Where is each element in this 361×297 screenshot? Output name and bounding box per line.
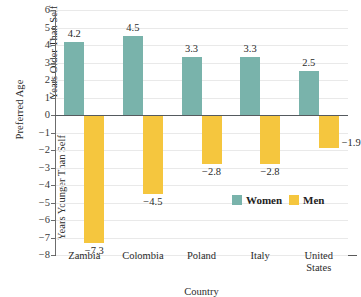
bar-women xyxy=(123,36,143,115)
legend-item: Men xyxy=(289,194,324,206)
y-tick-label: 3 xyxy=(45,57,50,68)
bar-men xyxy=(319,115,339,148)
y-tick-label: −7 xyxy=(39,232,50,243)
y-tick-label: 0 xyxy=(45,110,50,121)
bar-value-label-women: 3.3 xyxy=(240,44,260,55)
x-tick-label: Poland xyxy=(172,250,231,262)
x-axis-title: Country xyxy=(55,286,348,297)
legend-swatch xyxy=(289,195,299,205)
bar-value-label-men: −2.8 xyxy=(260,167,280,178)
bar-value-label-women: 4.5 xyxy=(123,23,143,34)
bar-men xyxy=(84,115,104,243)
y-tick-label: −2 xyxy=(39,145,50,156)
bar-value-label-men: −2.8 xyxy=(202,167,222,178)
y-tick-label: 6 xyxy=(45,5,50,16)
bar-value-label-men: −4.5 xyxy=(143,197,163,208)
bar-women xyxy=(299,71,319,115)
y-tick-label: −4 xyxy=(39,180,50,191)
x-tick-label: Colombia xyxy=(114,250,173,262)
chart-legend: WomenMen xyxy=(232,194,324,206)
y-tick-label: 5 xyxy=(45,22,50,33)
x-tick-label: United States xyxy=(289,250,348,273)
bar-value-label-men: −1.9 xyxy=(342,138,361,149)
bar-women xyxy=(240,57,260,115)
x-tick-label: Italy xyxy=(231,250,290,262)
legend-label: Men xyxy=(303,194,324,206)
legend-item: Women xyxy=(232,194,282,206)
y-tick-label: −6 xyxy=(39,215,50,226)
y-tick-label: −1 xyxy=(39,127,50,138)
bar-men xyxy=(202,115,222,164)
bar-value-label-women: 4.2 xyxy=(64,29,84,40)
bar-value-label-women: 3.3 xyxy=(182,44,202,55)
y-tick-label: −5 xyxy=(39,197,50,208)
bar-value-label-women: 2.5 xyxy=(299,58,319,69)
y-tick-label: 2 xyxy=(45,75,50,86)
legend-label: Women xyxy=(246,194,282,206)
plot-area: 6543210−1−2−3−4−5−6−7−8 4.2−7.34.5−4.53.… xyxy=(55,10,348,255)
y-tick-label: 1 xyxy=(45,92,50,103)
bar-value-label-men: −7.3 xyxy=(84,246,104,257)
bar-men xyxy=(143,115,163,194)
bars-layer: 4.2−7.34.5−4.53.3−2.83.3−2.82.5−1.9 xyxy=(55,10,348,255)
y-tick-label: −3 xyxy=(39,162,50,173)
y-tick-label: −8 xyxy=(39,250,50,261)
y-axis-title-outer: Preferred Age xyxy=(14,55,25,165)
y-tick-label: 4 xyxy=(45,40,50,51)
zero-line xyxy=(55,115,348,116)
bar-women xyxy=(64,42,84,116)
bar-women xyxy=(182,57,202,115)
bar-men xyxy=(260,115,280,164)
legend-swatch xyxy=(232,195,242,205)
